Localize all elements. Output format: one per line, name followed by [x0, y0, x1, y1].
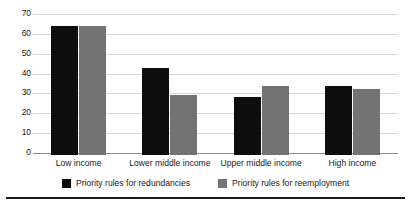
bar-group [51, 16, 106, 155]
bar-group [234, 16, 289, 155]
legend-label: Priority rules for reemployment [232, 178, 349, 188]
bar-group [325, 16, 380, 155]
y-tick-label-60: 60 [3, 29, 31, 38]
gray-square-swatch [218, 179, 227, 188]
bar [142, 68, 169, 155]
bar [170, 95, 197, 155]
bar-chart-figure: 010203040506070 Priority rules for redun… [0, 0, 411, 205]
y-axis-tick-labels: 010203040506070 [0, 14, 31, 155]
bar [353, 89, 380, 155]
y-tick-label-40: 40 [3, 69, 31, 78]
legend-entry: Priority rules for redundancies [62, 178, 190, 188]
gridline-70 [33, 14, 398, 15]
legend-entry: Priority rules for reemployment [218, 178, 349, 188]
bar [51, 26, 78, 155]
bar-group [142, 16, 197, 155]
bottom-divider-rule [6, 197, 405, 199]
bar [262, 86, 289, 156]
y-tick-label-50: 50 [3, 49, 31, 58]
black-square-swatch [62, 179, 71, 188]
bar [325, 86, 352, 156]
bar [79, 26, 106, 155]
plot-area [33, 14, 398, 155]
y-tick-label-20: 20 [3, 108, 31, 117]
y-tick-label-10: 10 [3, 128, 31, 137]
y-tick-label-70: 70 [3, 9, 31, 18]
category-label: High income [292, 158, 411, 168]
bar [234, 97, 261, 155]
chart-legend: Priority rules for redundanciesPriority … [0, 176, 411, 190]
y-tick-label-30: 30 [3, 88, 31, 97]
y-tick-label-0: 0 [3, 148, 31, 157]
legend-label: Priority rules for redundancies [76, 178, 190, 188]
